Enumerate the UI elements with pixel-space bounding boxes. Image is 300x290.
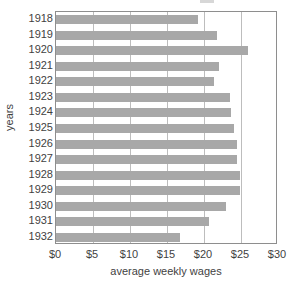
bar-row bbox=[56, 59, 278, 75]
y-tick-label-1930: 1930 bbox=[17, 200, 53, 211]
bar-row bbox=[56, 74, 278, 90]
y-tick-label-1929: 1929 bbox=[17, 184, 53, 195]
bar-row bbox=[56, 183, 278, 199]
y-tick-label-1921: 1921 bbox=[17, 60, 53, 71]
y-tick-label-1932: 1932 bbox=[17, 231, 53, 242]
bar-1929 bbox=[56, 186, 240, 195]
bar-1922 bbox=[56, 77, 214, 86]
bar-row bbox=[56, 214, 278, 230]
y-tick-label-1919: 1919 bbox=[17, 29, 53, 40]
y-tick-label-1920: 1920 bbox=[17, 44, 53, 55]
bar-row bbox=[56, 90, 278, 106]
x-tick-label-usd-20: $20 bbox=[183, 248, 223, 260]
bar-1930 bbox=[56, 202, 226, 211]
bar-row bbox=[56, 152, 278, 168]
y-tick-label-1923: 1923 bbox=[17, 91, 53, 102]
bar-1932 bbox=[56, 233, 180, 242]
x-tick-label-usd-10: $10 bbox=[109, 248, 149, 260]
bar-row bbox=[56, 167, 278, 183]
bar-row bbox=[56, 105, 278, 121]
y-tick-label-1926: 1926 bbox=[17, 138, 53, 149]
x-axis-title: average weekly wages bbox=[55, 265, 277, 277]
x-tick-label-usd-25: $25 bbox=[220, 248, 260, 260]
y-tick-label-1918: 1918 bbox=[17, 13, 53, 24]
bar-row bbox=[56, 12, 278, 28]
bar-1918 bbox=[56, 15, 198, 24]
bar-1920 bbox=[56, 46, 248, 55]
bar-1926 bbox=[56, 140, 237, 149]
bar-1927 bbox=[56, 155, 237, 164]
y-tick-label-1925: 1925 bbox=[17, 122, 53, 133]
plot-area bbox=[55, 11, 277, 244]
bar-row bbox=[56, 28, 278, 44]
x-axis-tick-labels: $0$5$10$15$20$25$30 bbox=[55, 248, 277, 262]
bar-row bbox=[56, 121, 278, 137]
y-tick-label-1924: 1924 bbox=[17, 106, 53, 117]
bar-1925 bbox=[56, 124, 234, 133]
bar-1923 bbox=[56, 93, 230, 102]
bar-row bbox=[56, 198, 278, 214]
x-tick-label-usd-0: $0 bbox=[35, 248, 75, 260]
y-tick-label-1927: 1927 bbox=[17, 153, 53, 164]
x-tick-label-usd-15: $15 bbox=[146, 248, 186, 260]
bar-1921 bbox=[56, 62, 219, 71]
y-tick-label-1931: 1931 bbox=[17, 215, 53, 226]
bar-1928 bbox=[56, 171, 240, 180]
bar-1924 bbox=[56, 108, 231, 117]
y-tick-label-1922: 1922 bbox=[17, 75, 53, 86]
bar-row bbox=[56, 43, 278, 59]
y-axis-tick-labels: 1918191919201921192219231924192519261927… bbox=[13, 11, 53, 244]
bar-row bbox=[56, 229, 278, 245]
bar-1931 bbox=[56, 217, 209, 226]
y-tick-label-1928: 1928 bbox=[17, 169, 53, 180]
bar-row bbox=[56, 136, 278, 152]
bar-chart: years 1918191919201921192219231924192519… bbox=[0, 0, 300, 290]
x-tick-label-usd-30: $30 bbox=[257, 248, 297, 260]
x-tick-label-usd-5: $5 bbox=[72, 248, 112, 260]
bar-1919 bbox=[56, 31, 217, 40]
bars-layer bbox=[56, 12, 276, 243]
clipped-title-remnant bbox=[200, 0, 214, 3]
